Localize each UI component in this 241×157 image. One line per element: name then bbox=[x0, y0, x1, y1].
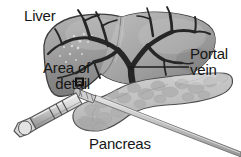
label-portal-vein-line1: Portal bbox=[190, 45, 228, 62]
label-area-of-detail-line2: detail bbox=[55, 75, 90, 92]
label-liver: Liver bbox=[24, 8, 56, 23]
label-pancreas: Pancreas bbox=[89, 136, 151, 151]
label-area-of-detail: Area ofdetail bbox=[26, 60, 90, 92]
syringe-barrel bbox=[14, 93, 82, 137]
label-portal-vein-line2: vein bbox=[190, 61, 217, 78]
label-area-of-detail-line1: Area of bbox=[43, 59, 90, 76]
label-portal-vein: Portalvein bbox=[190, 46, 228, 78]
medical-illustration-figure: Liver Area ofdetail Portalvein Pancreas bbox=[0, 0, 241, 157]
